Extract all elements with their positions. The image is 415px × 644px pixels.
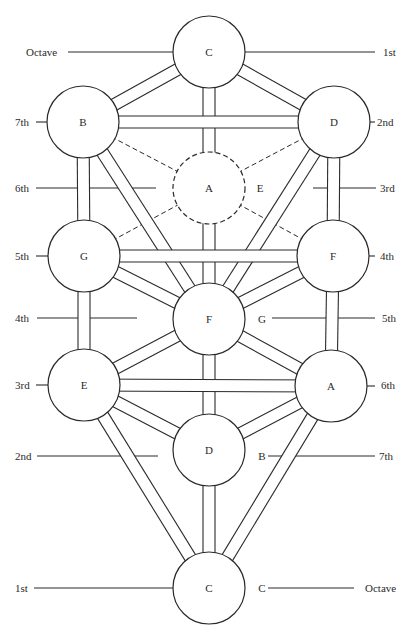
node-label: D [330,116,338,128]
path-b-d-top [83,116,334,128]
node-d-low: D [173,414,245,486]
node-label: D [205,444,213,456]
node-label: A [205,182,213,194]
node-e: E [48,349,120,421]
free-label-b-beside-d: B [258,450,265,462]
node-label: E [81,379,88,391]
left-scale-label: 7th [15,116,30,128]
node-d-top: D [298,86,370,158]
node-label: C [205,46,212,58]
left-scale-label: 5th [15,250,30,262]
right-scale-label: 5th [382,312,397,324]
left-scale-label: 3rd [15,379,30,391]
node-b: B [47,86,119,158]
node-label: F [206,313,212,325]
node-top-c: C [173,16,245,88]
left-scale-label: 6th [15,182,30,194]
right-scale-label: 1st [383,46,396,58]
node-label: G [80,250,88,262]
right-scale-label: 6th [381,379,396,391]
node-g: G [48,220,120,292]
right-scale-label: 3rd [380,182,395,194]
node-label: B [79,116,86,128]
path-e-a-right [84,379,331,392]
left-scale-label: 1st [15,582,28,594]
node-label: C [205,582,212,594]
right-scale-label: 7th [379,450,394,462]
left-scale-label: 2nd [15,450,32,462]
right-scale-label: Octave [365,582,396,594]
node-a-mid: A [173,152,245,224]
free-label-c-beside-c: C [258,582,265,594]
node-label: F [330,250,336,262]
node-f-center: F [173,283,245,355]
path-g-f-right [84,250,333,262]
right-scale-label: 2nd [377,116,394,128]
node-label: A [327,380,335,392]
free-label-g-beside-f: G [258,313,266,325]
free-label-e-beside-a: E [257,182,264,194]
node-bot-c: C [173,552,245,624]
tree-of-life-scale-diagram: CBDAGFFEADC EGBC Octave7th6th5th4th3rd2n… [0,0,415,644]
left-scale-label: 4th [15,312,30,324]
left-scale-label: Octave [26,46,57,58]
node-f-right: F [297,220,369,292]
node-a-right: A [295,350,367,422]
right-scale-label: 4th [380,250,395,262]
